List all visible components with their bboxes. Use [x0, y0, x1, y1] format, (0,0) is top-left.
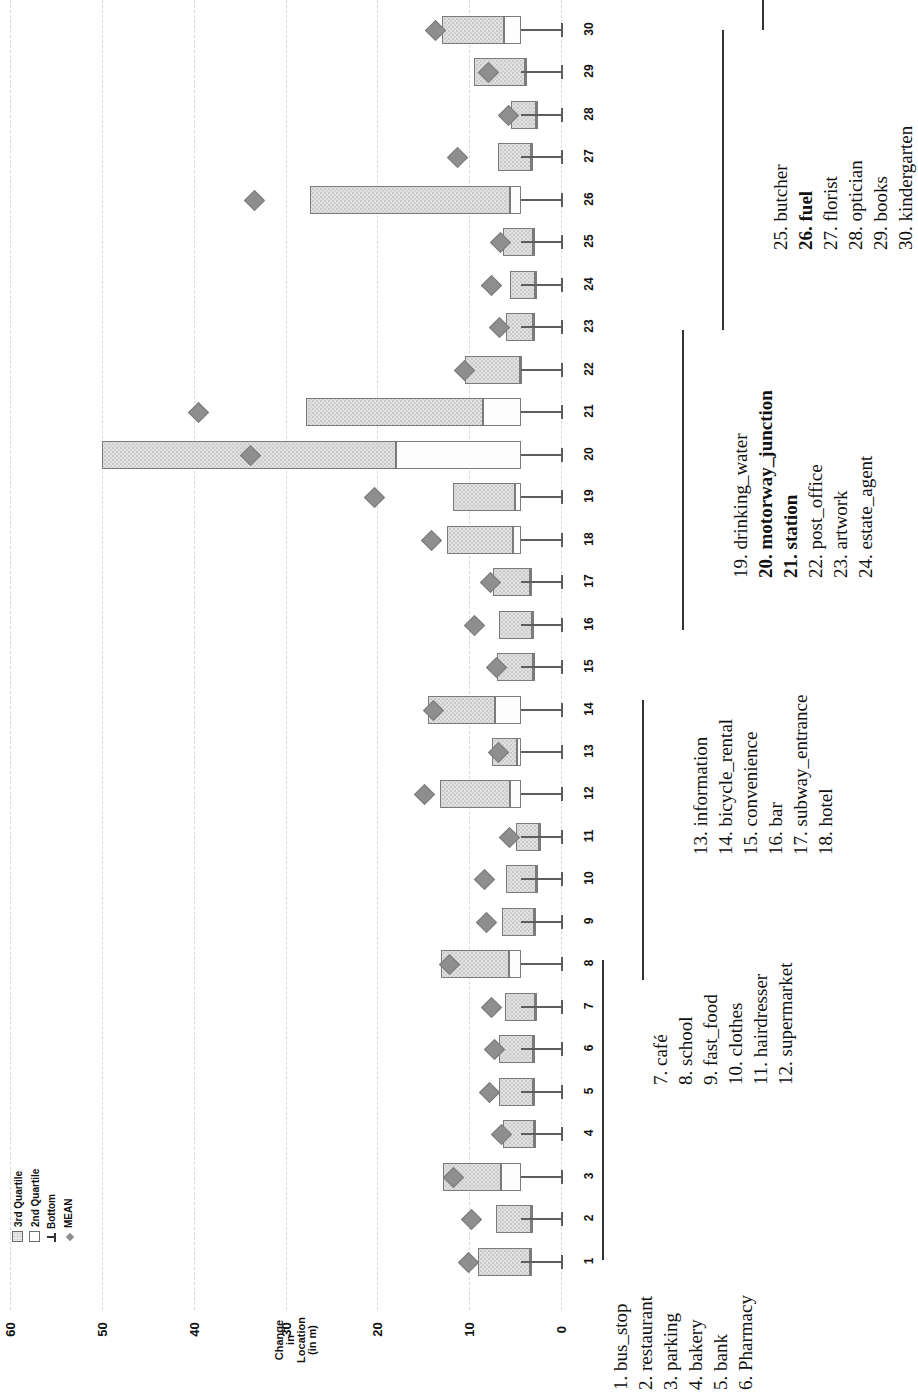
whisker-cap: [561, 1170, 563, 1184]
whisker-cap: [561, 703, 563, 717]
mean-marker: [476, 912, 497, 933]
x-tick-60: 60: [3, 1310, 18, 1350]
caption-item: 13. information: [688, 555, 713, 855]
whisker-cap: [561, 1000, 563, 1014]
box-row: [0, 526, 600, 554]
category-tick-26: 26: [582, 179, 596, 219]
category-tick-19: 19: [582, 476, 596, 516]
whisker-cap: [561, 278, 563, 292]
caption-item: 18. hotel: [813, 555, 838, 855]
category-tick-20: 20: [582, 434, 596, 474]
bottom-whisker: [521, 241, 561, 243]
mean-marker: [364, 487, 385, 508]
box-row: [0, 993, 600, 1021]
mean-marker: [458, 1252, 479, 1273]
box-row: [0, 271, 600, 299]
box-row: [0, 186, 600, 214]
mean-marker: [421, 530, 442, 551]
second-quartile-segment: [495, 696, 521, 724]
box-row: [0, 356, 600, 384]
axis-title-line-4: (in m): [307, 1280, 318, 1398]
bottom-whisker: [521, 709, 561, 711]
whisker-cap: [561, 193, 563, 207]
category-tick-6: 6: [582, 1028, 596, 1068]
box-row: [0, 780, 600, 808]
caption-item: 14. bicycle_rental: [713, 555, 738, 855]
category-tick-3: 3: [582, 1156, 596, 1196]
chart-legend: 3rd Quartile2nd QuartileBottomMEAN: [4, 1130, 94, 1245]
caption-item: 26. fuel: [793, 10, 818, 250]
category-tick-9: 9: [582, 901, 596, 941]
bottom-whisker: [521, 1091, 561, 1093]
caption-item: 17. subway_entrance: [788, 555, 813, 855]
category-tick-13: 13: [582, 731, 596, 771]
box-row: [0, 58, 600, 86]
mean-marker: [461, 1209, 482, 1230]
box-row: [0, 101, 600, 129]
category-tick-8: 8: [582, 943, 596, 983]
box-row: [0, 908, 600, 936]
mean-marker: [244, 190, 265, 211]
caption-item: 28. optician: [843, 10, 868, 250]
whisker-cap: [561, 830, 563, 844]
category-tick-1: 1: [582, 1241, 596, 1281]
category-tick-29: 29: [582, 51, 596, 91]
caption-item: 21. station: [778, 248, 803, 578]
x-tick-10: 10: [462, 1310, 477, 1350]
second-quartile-segment: [509, 950, 521, 978]
box-row: [0, 653, 600, 681]
caption-separator-rule: [603, 960, 605, 1260]
caption-separator-rule: [763, 0, 765, 30]
whisker-cap: [561, 235, 563, 249]
whisker-cap: [561, 23, 563, 37]
mean-marker: [474, 869, 495, 890]
third-quartile-segment: [440, 780, 510, 808]
caption-item: 24. estate_agent: [853, 248, 878, 578]
box-row: [0, 1248, 600, 1276]
box-row: [0, 950, 600, 978]
category-tick-28: 28: [582, 94, 596, 134]
legend-label: 2nd Quartile: [30, 1169, 41, 1227]
caption-item: 12. supermarket: [773, 825, 798, 1085]
mean-marker: [481, 275, 502, 296]
whisker-cap: [561, 618, 563, 632]
legend-item-mean-diamond-symbol: MEAN: [63, 1132, 79, 1242]
box-row: [0, 738, 600, 766]
bottom-whisker: [521, 751, 561, 753]
bottom-whisker: [521, 496, 561, 498]
whisker-cap: [561, 745, 563, 759]
caption-item: 2. restaurant: [633, 1100, 658, 1390]
whisker-cap: [561, 405, 563, 419]
x-tick-0: 0: [554, 1310, 569, 1350]
second-quartile-segment: [513, 526, 521, 554]
category-tick-10: 10: [582, 858, 596, 898]
bottom-whisker: [521, 326, 561, 328]
bottom-whisker: [521, 1261, 561, 1263]
box-row: [0, 228, 600, 256]
caption-item: 15. convenience: [738, 555, 763, 855]
caption-item: 9. fast_food: [698, 825, 723, 1085]
bottom-whisker: [521, 539, 561, 541]
legend-item-bottom-whisker-symbol: Bottom: [46, 1132, 62, 1242]
second-quartile-segment: [510, 780, 521, 808]
caption-separator-rule: [683, 330, 685, 630]
category-tick-25: 25: [582, 221, 596, 261]
box-row: [0, 1078, 600, 1106]
second-quartile-segment: [510, 186, 521, 214]
whisker-cap: [561, 1212, 563, 1226]
caption-item: 29. books: [868, 10, 893, 250]
category-tick-27: 27: [582, 136, 596, 176]
box-row: [0, 611, 600, 639]
legend-label: 3rd Quartile: [13, 1171, 24, 1227]
bottom-whisker: [521, 1048, 561, 1050]
third-quartile-segment: [453, 483, 515, 511]
whisker-cap: [561, 1042, 563, 1056]
box-row: [0, 143, 600, 171]
box-row: [0, 16, 600, 44]
category-tick-11: 11: [582, 816, 596, 856]
caption-item: 30. kindergarten: [893, 10, 918, 250]
bottom-whisker: [521, 114, 561, 116]
mean-marker: [478, 1082, 499, 1103]
whisker-cap: [561, 575, 563, 589]
caption-item: 10. clothes: [723, 825, 748, 1085]
